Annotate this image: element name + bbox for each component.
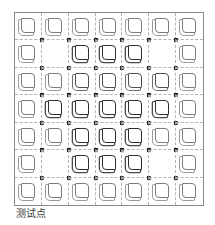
- grid-cell-r6-c1: [42, 178, 69, 205]
- pad-square-icon: [48, 100, 62, 115]
- test-point-marker-icon: [94, 66, 98, 70]
- test-point-marker-icon: [120, 93, 124, 97]
- pad-square-icon: [21, 45, 35, 60]
- grid-cell-r4-c3: [96, 123, 123, 150]
- test-point-marker-icon: [120, 148, 124, 152]
- grid-cell-r0-c0: [15, 13, 42, 40]
- test-point-marker-icon: [120, 121, 124, 125]
- pad-square-icon: [21, 73, 35, 88]
- pad-grid-figure: [14, 12, 204, 206]
- test-point-marker-icon: [40, 148, 44, 152]
- test-point-marker-icon: [94, 93, 98, 97]
- grid-cell-r2-c1: [42, 68, 69, 95]
- test-point-marker-icon: [120, 66, 124, 70]
- test-point-marker-icon: [94, 38, 98, 42]
- pad-square-icon: [182, 18, 196, 33]
- pad-square-icon: [128, 155, 142, 170]
- grid-cell-r0-c1: [42, 13, 69, 40]
- test-point-marker-icon: [40, 66, 44, 70]
- grid-cell-r0-c4: [122, 13, 149, 40]
- pad-square-icon: [75, 18, 89, 33]
- grid-cell-r3-c4: [122, 95, 149, 122]
- pad-square-icon: [182, 128, 196, 143]
- pad-square-icon: [128, 73, 142, 88]
- pad-square-icon: [182, 45, 196, 60]
- grid-cell-r5-c5: [149, 150, 176, 177]
- test-point-marker-icon: [94, 148, 98, 152]
- grid-cell-r2-c0: [15, 68, 42, 95]
- grid-cell-r5-c1: [42, 150, 69, 177]
- test-point-marker-icon: [67, 176, 71, 180]
- pad-square-icon: [21, 183, 35, 198]
- grid-cell-r0-c5: [149, 13, 176, 40]
- grid-cell-r1-c2: [69, 40, 96, 67]
- grid-cell-r3-c2: [69, 95, 96, 122]
- figure-caption: 测试点: [16, 207, 46, 221]
- pad-square-icon: [102, 18, 116, 33]
- pad-square-icon: [182, 183, 196, 198]
- pad-square-icon: [75, 155, 89, 170]
- test-point-marker-icon: [174, 176, 178, 180]
- grid-cell-r4-c6: [176, 123, 203, 150]
- grid-cell-r1-c1: [42, 40, 69, 67]
- pad-square-icon: [21, 100, 35, 115]
- test-point-marker-icon: [40, 93, 44, 97]
- pad-square-icon: [75, 183, 89, 198]
- pad-square-icon: [75, 128, 89, 143]
- test-point-marker-icon: [67, 148, 71, 152]
- pad-square-icon: [102, 128, 116, 143]
- pad-square-icon: [102, 45, 116, 60]
- test-point-marker-icon: [174, 121, 178, 125]
- grid-cell-r2-c5: [149, 68, 176, 95]
- grid-cell-r2-c4: [122, 68, 149, 95]
- pad-square-icon: [128, 100, 142, 115]
- pad-square-icon: [75, 45, 89, 60]
- grid-cell-r2-c2: [69, 68, 96, 95]
- test-point-marker-icon: [120, 176, 124, 180]
- test-point-marker-icon: [94, 121, 98, 125]
- grid-cell-r6-c2: [69, 178, 96, 205]
- grid-cell-r5-c2: [69, 150, 96, 177]
- test-point-marker-icon: [174, 66, 178, 70]
- pad-square-icon: [21, 128, 35, 143]
- grid-cell-r1-c4: [122, 40, 149, 67]
- pad-square-icon: [155, 183, 169, 198]
- grid-cell-r0-c6: [176, 13, 203, 40]
- test-point-marker-icon: [147, 148, 151, 152]
- grid-cell-r1-c3: [96, 40, 123, 67]
- pad-square-icon: [75, 73, 89, 88]
- grid-cell-r0-c3: [96, 13, 123, 40]
- pad-square-icon: [182, 155, 196, 170]
- grid-cell-r5-c0: [15, 150, 42, 177]
- test-point-marker-icon: [174, 38, 178, 42]
- test-point-marker-icon: [120, 38, 124, 42]
- pad-square-icon: [182, 100, 196, 115]
- test-point-marker-icon: [40, 38, 44, 42]
- pad-square-icon: [128, 45, 142, 60]
- pad-square-icon: [155, 18, 169, 33]
- grid-cell-r1-c0: [15, 40, 42, 67]
- grid-cell-r3-c0: [15, 95, 42, 122]
- grid-cell-r6-c4: [122, 178, 149, 205]
- pad-square-icon: [102, 155, 116, 170]
- test-point-marker-icon: [40, 121, 44, 125]
- grid-cell-r4-c5: [149, 123, 176, 150]
- grid-cell-r1-c5: [149, 40, 176, 67]
- grid-cell-r5-c6: [176, 150, 203, 177]
- pad-square-icon: [48, 73, 62, 88]
- pad-square-icon: [48, 18, 62, 33]
- test-point-marker-icon: [67, 66, 71, 70]
- pad-square-icon: [48, 128, 62, 143]
- pad-square-icon: [128, 128, 142, 143]
- grid-cell-r4-c0: [15, 123, 42, 150]
- test-point-marker-icon: [67, 121, 71, 125]
- test-point-marker-icon: [67, 38, 71, 42]
- pad-square-icon: [155, 100, 169, 115]
- pad-square-icon: [102, 183, 116, 198]
- grid-cell-r4-c1: [42, 123, 69, 150]
- pad-square-icon: [128, 183, 142, 198]
- test-point-marker-icon: [147, 93, 151, 97]
- test-point-marker-icon: [67, 93, 71, 97]
- test-point-marker-icon: [147, 38, 151, 42]
- pad-square-icon: [48, 183, 62, 198]
